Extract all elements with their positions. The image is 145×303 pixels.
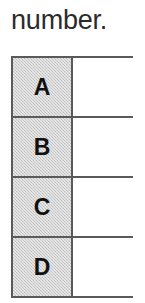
answer-grid-body: A B C: [12, 57, 133, 297]
row-value-cell-b[interactable]: [72, 117, 133, 177]
table-row: B: [12, 117, 133, 177]
answer-grid: A B C: [11, 56, 133, 298]
caption-text: number.: [11, 4, 107, 36]
row-label-b: B: [13, 136, 71, 159]
row-label-c: C: [13, 196, 71, 219]
page-root: number. A B: [0, 0, 145, 303]
table-row: C: [12, 177, 133, 237]
row-label-a: A: [13, 76, 71, 99]
table-row: A: [12, 57, 133, 117]
row-value-cell-d[interactable]: [72, 237, 133, 297]
row-label-cell-d[interactable]: D: [12, 237, 72, 297]
answer-grid-container: A B C: [11, 56, 133, 303]
row-label-d: D: [13, 256, 71, 279]
row-value-cell-a[interactable]: [72, 57, 133, 117]
row-value-cell-c[interactable]: [72, 177, 133, 237]
row-label-cell-c[interactable]: C: [12, 177, 72, 237]
row-label-cell-a[interactable]: A: [12, 57, 72, 117]
table-row: D: [12, 237, 133, 297]
row-label-cell-b[interactable]: B: [12, 117, 72, 177]
